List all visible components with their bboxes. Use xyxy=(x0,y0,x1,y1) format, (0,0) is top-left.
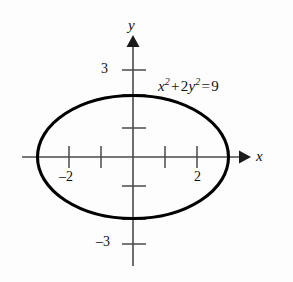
y-axis-label: y xyxy=(128,18,135,33)
ellipse-figure: y x 3 –3 –2 2 x2+2y2=9 xyxy=(0,0,293,282)
equation-term1-base: x xyxy=(158,78,165,94)
plot-canvas xyxy=(0,0,293,282)
x-axis-arrowhead xyxy=(239,151,251,164)
equation-annotation: x2+2y2=9 xyxy=(158,77,219,94)
y-tick-label-neg3: –3 xyxy=(96,235,110,249)
equation-plus-sign: + xyxy=(170,78,181,94)
x-tick-label-2: 2 xyxy=(194,170,201,184)
y-tick-label-3: 3 xyxy=(101,62,108,76)
equation-right-hand-side: 9 xyxy=(211,78,219,94)
equation-term2-exponent: 2 xyxy=(195,76,200,87)
x-axis-label: x xyxy=(256,149,263,164)
equation-equals-sign: = xyxy=(201,78,212,94)
x-tick-label-neg2: –2 xyxy=(59,170,73,184)
y-axis-arrowhead xyxy=(127,35,140,47)
